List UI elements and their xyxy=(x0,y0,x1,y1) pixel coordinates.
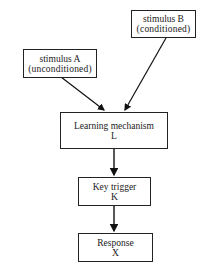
node-stimulus-a: stimulus A (unconditioned) xyxy=(23,49,97,78)
arrow-b-to-learning xyxy=(125,38,166,110)
node-label: Learning mechanism xyxy=(74,121,154,131)
node-sublabel: L xyxy=(111,131,117,141)
node-stimulus-b: stimulus B (conditioned) xyxy=(131,10,196,38)
node-sublabel: (unconditioned) xyxy=(28,64,92,74)
node-sublabel: K xyxy=(111,192,118,202)
node-response: Response X xyxy=(78,233,153,262)
node-learning-mechanism: Learning mechanism L xyxy=(60,112,168,149)
node-label: Key trigger xyxy=(93,182,137,192)
node-key-trigger: Key trigger K xyxy=(78,177,151,206)
node-label: stimulus A xyxy=(40,54,81,64)
node-sublabel: (conditioned) xyxy=(137,24,191,34)
arrow-a-to-learning xyxy=(61,77,104,110)
node-label: Response xyxy=(97,238,133,248)
node-sublabel: X xyxy=(112,248,119,258)
node-label: stimulus B xyxy=(143,14,184,24)
